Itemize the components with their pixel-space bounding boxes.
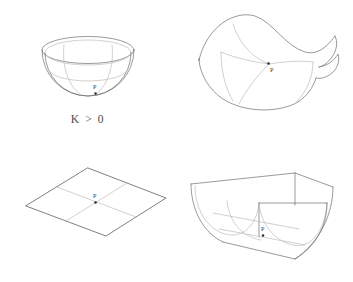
plane-point-marker: [94, 201, 97, 204]
curvature-figure: P K > 0: [0, 0, 353, 282]
sphere-point-label: P: [93, 83, 97, 90]
panel-sphere-positive-curvature: P K > 0: [0, 0, 176, 141]
plane-surface-drawing: P: [0, 141, 176, 282]
saddle-point-label: P: [270, 66, 274, 73]
cylinder-ruling-line-secondary: [213, 213, 299, 229]
cylinder-point-marker: [262, 234, 265, 237]
panel-saddle-negative-curvature: P K < 0: [177, 0, 353, 141]
cylinder-back-left-rim: [191, 173, 295, 184]
sphere-point-marker: [94, 92, 97, 95]
caption-sphere: K > 0: [0, 113, 176, 125]
cylinder-surface-drawing: P: [177, 141, 353, 282]
plane-point-label: P: [93, 192, 97, 199]
saddle-surface-drawing: P: [177, 0, 353, 141]
saddle-point-marker: [267, 62, 270, 65]
panel-plane-zero-curvature: P K = 0: [0, 141, 176, 282]
cylinder-point-label: P: [261, 225, 265, 232]
panel-cylinder-zero-curvature: P K = 0: [177, 141, 353, 282]
